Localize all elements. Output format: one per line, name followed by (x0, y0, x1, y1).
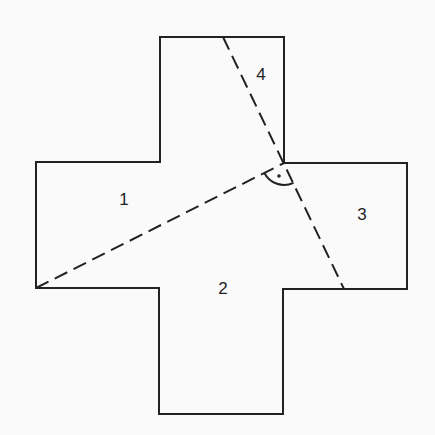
region-label-1: 1 (119, 190, 128, 210)
cross-diagram (0, 0, 435, 435)
dashed-cut-line-1 (36, 163, 284, 288)
region-label-2: 2 (218, 279, 227, 299)
cross-outline (36, 37, 407, 414)
right-angle-dot (277, 174, 281, 178)
region-label-3: 3 (357, 205, 366, 225)
region-label-4: 4 (256, 65, 265, 85)
